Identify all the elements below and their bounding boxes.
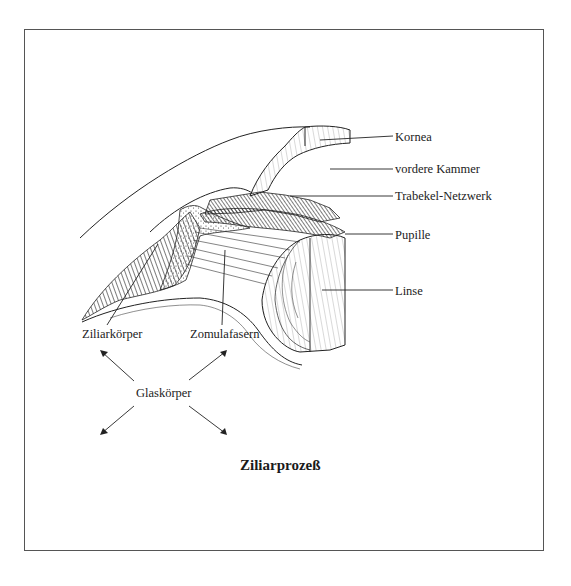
- label-zonulafasern: Zomulafasern: [190, 327, 259, 341]
- label-pupille: Pupille: [395, 228, 430, 242]
- label-kornea: Kornea: [395, 130, 432, 144]
- label-ziliarkoerper: Ziliarkörper: [82, 327, 142, 341]
- ciliary-process-illustration: [0, 0, 571, 586]
- label-trabekel-netzwerk: Trabekel-Netzwerk: [395, 189, 492, 203]
- label-linse: Linse: [395, 284, 423, 298]
- label-glaskoerper: Glaskörper: [136, 386, 192, 400]
- label-vordere-kammer: vordere Kammer: [395, 162, 480, 176]
- diagram-title: Ziliarprozeß: [240, 457, 321, 474]
